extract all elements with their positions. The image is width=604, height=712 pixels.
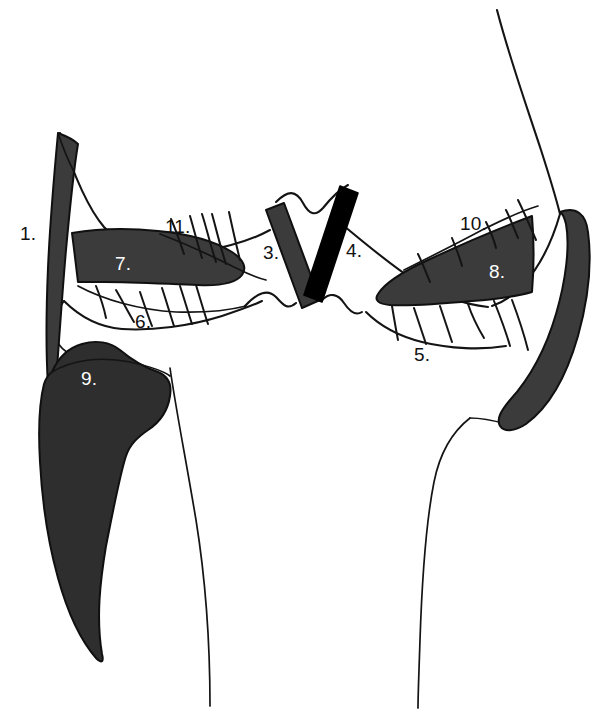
diagram-canvas bbox=[0, 0, 604, 712]
right-upper-body-outline bbox=[497, 10, 560, 214]
left-obturator-margin bbox=[64, 301, 262, 329]
label-2: 2. bbox=[549, 248, 565, 267]
label-3: 3. bbox=[263, 243, 279, 262]
region-5-tick-group bbox=[392, 300, 528, 350]
left-femur-outline bbox=[170, 368, 210, 706]
label-9: 9. bbox=[81, 369, 97, 388]
region-9-left-large-mass bbox=[39, 342, 170, 661]
label-10: 10. bbox=[460, 214, 487, 233]
label-8: 8. bbox=[489, 262, 505, 281]
right-obturator-margin bbox=[366, 312, 506, 348]
pubic-arch-right bbox=[322, 295, 362, 314]
region-8-right-horizontal-body bbox=[377, 216, 534, 305]
label-5: 5. bbox=[414, 345, 430, 364]
label-4: 4. bbox=[346, 241, 362, 260]
label-1: 1. bbox=[20, 224, 36, 243]
right-femur-outline bbox=[418, 418, 470, 708]
region-6-tick-group bbox=[96, 285, 208, 326]
label-6: 6. bbox=[135, 312, 151, 331]
label-7: 7. bbox=[115, 254, 131, 273]
label-11: 11. bbox=[165, 217, 191, 236]
anatomical-diagram: 1. 2. 3. 4. 5. 6. 7. 8. 9. 10. 11. bbox=[0, 0, 604, 712]
